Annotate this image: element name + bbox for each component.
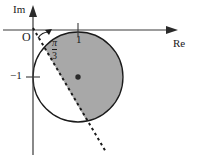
imaginary-axis-arrowhead — [29, 5, 37, 17]
real-axis-label: Re — [173, 38, 185, 49]
angle-numerator: π — [52, 38, 57, 49]
real-axis-tick-label-1: 1 — [76, 34, 82, 45]
real-axis-arrowhead — [166, 26, 178, 34]
origin-label: O — [22, 31, 31, 43]
complex-plane-diagram: Im Re O 1 −1 π 3 — [0, 0, 201, 159]
imaginary-axis-label: Im — [13, 4, 25, 15]
angle-denominator: 3 — [52, 51, 57, 62]
diagram-canvas — [0, 0, 201, 159]
imaginary-axis-tick-label-minus1: −1 — [10, 70, 22, 81]
angle-label-pi-over-3: π 3 — [52, 38, 57, 61]
circle-center-dot — [75, 74, 80, 79]
